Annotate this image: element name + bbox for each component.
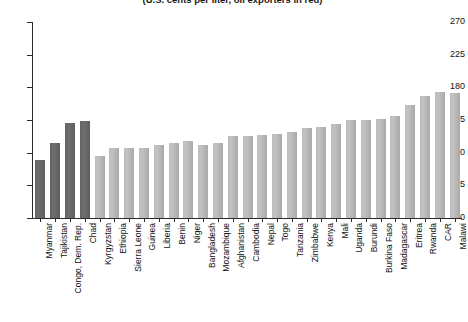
x-axis-label: Rwanda — [428, 223, 438, 254]
x-axis-tick — [425, 218, 426, 222]
x-axis-tick — [395, 218, 396, 222]
y-axis-tick — [27, 55, 32, 56]
y-axis-tick — [27, 153, 32, 154]
bar-malawi — [450, 93, 460, 218]
x-axis-tick — [70, 218, 71, 222]
bar-uganda — [346, 120, 356, 218]
x-axis-label: Mozambique — [221, 223, 231, 272]
x-axis-tick — [114, 218, 115, 222]
x-axis-tick — [203, 218, 204, 222]
x-axis-label: Togo — [280, 223, 290, 241]
x-axis-label: Uganda — [354, 223, 364, 253]
x-axis-tick — [144, 218, 145, 222]
bar-madagascar — [390, 116, 400, 218]
chart-subtitle: (U.S. cents per liter, oil exporters in … — [0, 0, 465, 5]
x-axis-tick — [321, 218, 322, 222]
y-axis-tick — [27, 22, 32, 23]
x-axis-tick — [85, 218, 86, 222]
x-axis-tick — [440, 218, 441, 222]
bar-car — [435, 92, 445, 218]
x-axis-label: Afghanistan — [236, 223, 246, 268]
x-axis-tick — [40, 218, 41, 222]
x-axis-tick — [188, 218, 189, 222]
x-axis-label: Eritrea — [414, 223, 424, 248]
bar-chad — [80, 121, 90, 218]
x-axis-label: Burkina Faso — [384, 223, 394, 273]
x-axis-label: Congo, Dem. Rep. — [73, 223, 83, 293]
bar-congo-dem-rep — [65, 123, 75, 218]
bar-tajikistan — [50, 143, 60, 218]
bar-eritrea — [405, 105, 415, 218]
bar-bangladesh — [198, 145, 208, 218]
x-axis-label: Sierra Leone — [133, 223, 143, 272]
bar-togo — [272, 134, 282, 218]
bar-ethiopia — [109, 148, 119, 218]
bar-sierra-leone — [124, 148, 134, 218]
x-axis-label: Mali — [340, 223, 350, 239]
plot-area — [33, 22, 462, 218]
x-axis-label: Ethiopia — [118, 223, 128, 254]
x-axis-label: Guinea — [147, 223, 157, 250]
bar-kenya — [316, 127, 326, 218]
bar-niger — [183, 141, 193, 218]
bar-nepal — [257, 135, 267, 218]
bar-burkina-faso — [376, 119, 386, 218]
x-axis-tick — [292, 218, 293, 222]
x-axis-label: Zimbabwe — [310, 223, 320, 262]
bar-cambodia — [243, 136, 253, 218]
x-axis-label: Cambodia — [251, 223, 261, 262]
bar-afghanistan — [228, 136, 238, 218]
bar-guinea — [139, 148, 149, 218]
y-axis-tick — [27, 120, 32, 121]
bar-tanzania — [287, 132, 297, 218]
bar-zimbabwe — [302, 128, 312, 218]
bar-rwanda — [420, 96, 430, 218]
x-axis-tick — [262, 218, 263, 222]
y-axis-tick — [27, 87, 32, 88]
x-axis-label: Chad — [88, 223, 98, 243]
y-axis-tick — [27, 185, 32, 186]
x-axis-label: Myanmar — [44, 223, 54, 258]
bar-liberia — [154, 145, 164, 218]
x-axis-label: Tanzania — [295, 223, 305, 257]
x-axis-tick — [351, 218, 352, 222]
x-axis-label: Niger — [192, 223, 202, 243]
x-axis-label: Burundi — [369, 223, 379, 252]
x-axis-tick — [455, 218, 456, 222]
x-axis-tick — [307, 218, 308, 222]
bar-benin — [169, 143, 179, 218]
x-axis-label: CAR — [443, 223, 453, 241]
x-axis-tick — [100, 218, 101, 222]
x-axis-tick — [277, 218, 278, 222]
x-axis-label: Bangladesh — [207, 223, 217, 268]
x-axis-label: Malawi — [458, 223, 468, 249]
x-axis-tick — [381, 218, 382, 222]
x-axis-tick — [366, 218, 367, 222]
x-axis-label: Liberia — [162, 223, 172, 249]
bar-kyrgyzstan — [95, 156, 105, 218]
x-axis-tick — [248, 218, 249, 222]
x-axis-tick — [336, 218, 337, 222]
bar-burundi — [361, 120, 371, 218]
x-axis-tick — [218, 218, 219, 222]
bar-mozambique — [213, 143, 223, 218]
x-axis-label: Kenya — [325, 223, 335, 247]
x-axis-tick — [159, 218, 160, 222]
bar-mali — [331, 124, 341, 218]
x-axis-tick — [129, 218, 130, 222]
x-axis-label: Madagascar — [399, 223, 409, 270]
x-axis-tick — [410, 218, 411, 222]
x-axis-tick — [55, 218, 56, 222]
y-axis-tick — [27, 218, 32, 219]
x-axis-label: Nepal — [266, 223, 276, 245]
x-axis-label: Benin — [177, 223, 187, 245]
x-axis-tick — [174, 218, 175, 222]
x-axis-label: Tajikistan — [59, 223, 69, 258]
x-axis-tick — [233, 218, 234, 222]
bar-myanmar — [35, 160, 45, 218]
x-axis-label: Kyrgyzstan — [103, 223, 113, 265]
